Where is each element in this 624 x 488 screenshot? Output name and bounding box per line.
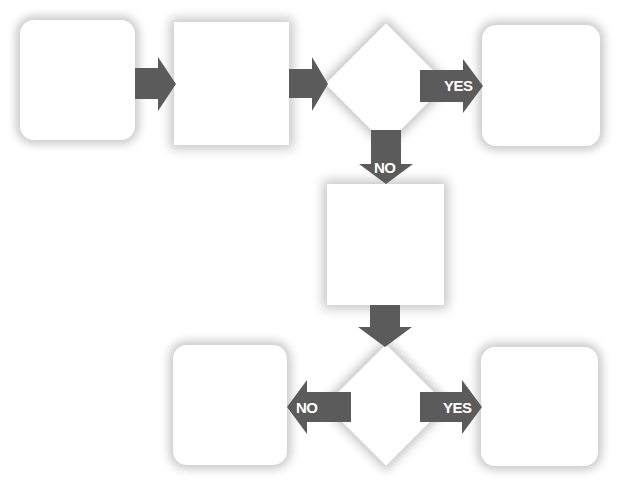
arrow-down-icon [358, 305, 412, 347]
arrow-no-down-1: NO [359, 130, 413, 184]
arrow-no-left-2: NO [287, 380, 351, 434]
arrow-right-icon [289, 57, 328, 111]
process-box-1 [20, 20, 135, 140]
arrow-yes-right-2: YES [420, 380, 482, 434]
no-box-2 [173, 345, 287, 465]
yes-box-1 [482, 25, 600, 146]
no-label: NO [296, 400, 318, 415]
arrow-yes-right-1: YES [420, 59, 483, 113]
process-box-2 [174, 22, 289, 145]
no-box-1 [327, 184, 444, 305]
yes-label: YES [443, 400, 472, 415]
yes-box-2 [481, 347, 598, 466]
yes-label: YES [444, 78, 473, 93]
arrow-right-icon [135, 57, 176, 111]
no-label: NO [374, 160, 396, 175]
